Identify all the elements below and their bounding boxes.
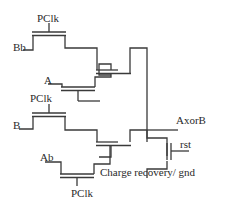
label-a: A xyxy=(44,74,52,86)
xor-circuit-diagram: PClk Bb A PClk B Ab PClk AxorB rst Charg… xyxy=(0,0,234,202)
label-axorb: AxorB xyxy=(176,114,206,126)
wire-stack-bottom-feedback xyxy=(99,130,147,157)
label-pclk-bottom: PClk xyxy=(71,187,94,199)
transistor-pclk-bottom xyxy=(60,174,94,186)
label-ab: Ab xyxy=(40,151,54,163)
label-pclk-mid: PClk xyxy=(30,92,53,104)
transistor-pclk-b xyxy=(32,104,66,117)
transistor-pclk-top xyxy=(32,23,66,36)
wire-rail-top xyxy=(130,48,147,142)
wire-ab xyxy=(45,162,61,174)
label-charge-recovery: Charge recovery/ gnd xyxy=(100,166,196,178)
wire-bb xyxy=(23,36,97,70)
wire-b xyxy=(19,117,97,142)
label-bb: Bb xyxy=(13,41,26,53)
wire-a-drain xyxy=(95,74,111,87)
label-b: B xyxy=(13,119,20,131)
transistor-stack-top xyxy=(96,70,131,74)
label-pclk-top: PClk xyxy=(37,12,60,24)
transistor-stack-bottom-top xyxy=(96,142,131,146)
transistor-pclk-mid xyxy=(61,87,95,101)
label-rst: rst xyxy=(180,138,191,150)
